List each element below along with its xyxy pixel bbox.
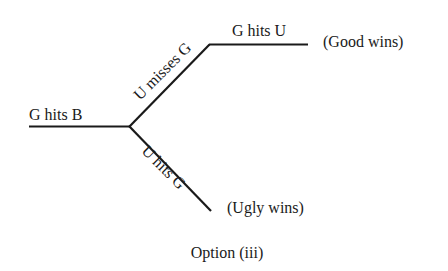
outcome-ugly-wins: (Ugly wins) <box>227 199 304 217</box>
game-tree-diagram: G hits B U misses G G hits U (Good wins)… <box>0 0 448 271</box>
label-g-hits-u: G hits U <box>232 22 287 39</box>
label-g-hits-b: G hits B <box>29 106 82 123</box>
label-u-hits-g: U hits G <box>139 142 190 193</box>
outcome-good-wins: (Good wins) <box>323 33 403 51</box>
caption: Option (iii) <box>191 244 263 262</box>
